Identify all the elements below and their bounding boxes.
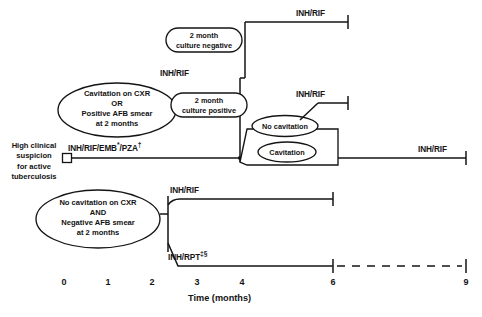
culture-negative-line-2: culture negative (166, 41, 242, 51)
initial-phase-drug-main: INH/RIF/EMB (68, 144, 117, 153)
axis-tick-2: 2 (145, 278, 159, 288)
culture-negative-text: 2 month culture negative (166, 31, 242, 50)
axis-tick-6: 6 (326, 278, 340, 288)
decision-node-1-line-4: at 2 months (58, 119, 176, 129)
regimen-label-cavitation: INH/RIF (418, 146, 447, 155)
regimen-label-lower-inh-rif: INH/RIF (170, 187, 199, 196)
line-lower-inh-rif (168, 199, 333, 205)
decision-node-1-line-3: Positive AFB smear (58, 109, 176, 119)
decision-node-2-line-2: AND (36, 208, 160, 218)
start-node-line-1: High clinical (6, 141, 62, 151)
culture-negative-line-1: 2 month (166, 31, 242, 41)
initial-phase-mark-2: † (138, 141, 142, 148)
no-cavitation-text: No cavitation (252, 122, 318, 132)
decision-node-2-line-1: No cavitation on CXR (36, 198, 160, 208)
regimen-label-lower-inh-rpt-main: INH/RPT (168, 253, 200, 262)
axis-tick-0: 0 (57, 278, 71, 288)
regimen-label-lower-inh-rpt-marks: ‡§ (200, 250, 207, 257)
decision-node-2-line-4: at 2 months (36, 228, 160, 238)
decision-node-2-text: No cavitation on CXR AND Negative AFB sm… (36, 198, 160, 238)
cavitation-label: Cavitation (258, 148, 316, 158)
cavitation-text: Cavitation (258, 148, 316, 158)
axis-tick-1: 1 (101, 278, 115, 288)
culture-positive-text: 2 month culture positive (171, 96, 247, 115)
start-square-marker (63, 154, 72, 163)
decision-node-2-line-3: Negative AFB smear (36, 218, 160, 228)
culture-positive-line-2: culture positive (171, 106, 247, 116)
tb-treatment-algorithm-diagram: High clinical suspicion for active tuber… (0, 0, 482, 317)
line-no-cavitation-riser (300, 103, 318, 120)
initial-phase-label: INH/RIF/EMB*/PZA† (68, 145, 141, 154)
decision-node-1-line-2: OR (58, 99, 176, 109)
regimen-label-branch-junction: INH/RIF (160, 70, 189, 79)
decision-node-1-text: Cavitation on CXR OR Positive AFB smear … (58, 89, 176, 129)
regimen-label-no-cavitation: INH/RIF (296, 91, 325, 100)
axis-tick-3: 3 (190, 278, 204, 288)
start-node-line-2: suspicion (6, 151, 62, 161)
no-cavitation-label: No cavitation (252, 122, 318, 132)
axis-title: Time (months) (188, 294, 251, 304)
regimen-label-lower-inh-rpt: INH/RPT‡§ (168, 254, 207, 263)
axis-tick-9: 9 (459, 278, 473, 288)
start-node-line-3: for active (6, 162, 62, 172)
start-node-line-4: tuberculosis (6, 172, 62, 182)
axis-tick-4: 4 (235, 278, 249, 288)
start-node-text: High clinical suspicion for active tuber… (6, 141, 62, 182)
culture-positive-line-1: 2 month (171, 96, 247, 106)
decision-node-1-line-1: Cavitation on CXR (58, 89, 176, 99)
regimen-label-culture-negative-top: INH/RIF (296, 10, 325, 19)
initial-phase-drug-second: /PZA (119, 144, 137, 153)
